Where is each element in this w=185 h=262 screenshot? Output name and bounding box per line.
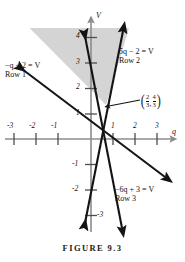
y-tick-label-3: 3: [76, 58, 80, 66]
y-tick-label--3: -3: [97, 211, 103, 219]
y-axis-name: V: [96, 12, 101, 21]
x-tick-label--1: -1: [51, 122, 57, 130]
point-y-fraction: 4 3: [152, 94, 156, 109]
row-3-name: Row 3: [115, 195, 154, 204]
figure-9-3: -3 -2 -1 1 2 3 1 2 3 4 -1 -2 -3 q V −q +…: [0, 0, 185, 262]
annotation-row-3: −6q + 3 = V Row 3: [115, 186, 154, 204]
point-leader-line: [109, 100, 140, 106]
figure-caption: FIGURE 9.3: [0, 243, 185, 253]
x-tick-label-1: 1: [111, 122, 115, 130]
row-1-name: Row 1: [5, 71, 40, 80]
x-tick-label--2: -2: [29, 122, 35, 130]
coordinate-plot: [0, 0, 185, 240]
y-tick-label-2: 2: [76, 83, 80, 91]
y-tick-label-4: 4: [76, 32, 80, 40]
intersection-point-label: ( 2 3 , 4 3 ): [140, 94, 162, 109]
row-2-name: Row 2: [119, 57, 154, 66]
x-tick-label-2: 2: [133, 122, 137, 130]
annotation-row-1: −q + 2 = V Row 1: [5, 62, 40, 80]
right-paren: ): [157, 94, 161, 108]
y-tick-label--2: -2: [72, 185, 78, 193]
x-tick-label--3: -3: [7, 122, 13, 130]
annotation-row-2: 5q − 2 = V Row 2: [119, 48, 154, 66]
y-tick-label--1: -1: [72, 160, 78, 168]
left-paren: (: [141, 94, 145, 108]
x-axis-name: q: [172, 128, 176, 137]
y-tick-label-1: 1: [76, 109, 80, 117]
x-tick-label-3: 3: [155, 122, 159, 130]
coordinate-separator: ,: [150, 99, 153, 108]
